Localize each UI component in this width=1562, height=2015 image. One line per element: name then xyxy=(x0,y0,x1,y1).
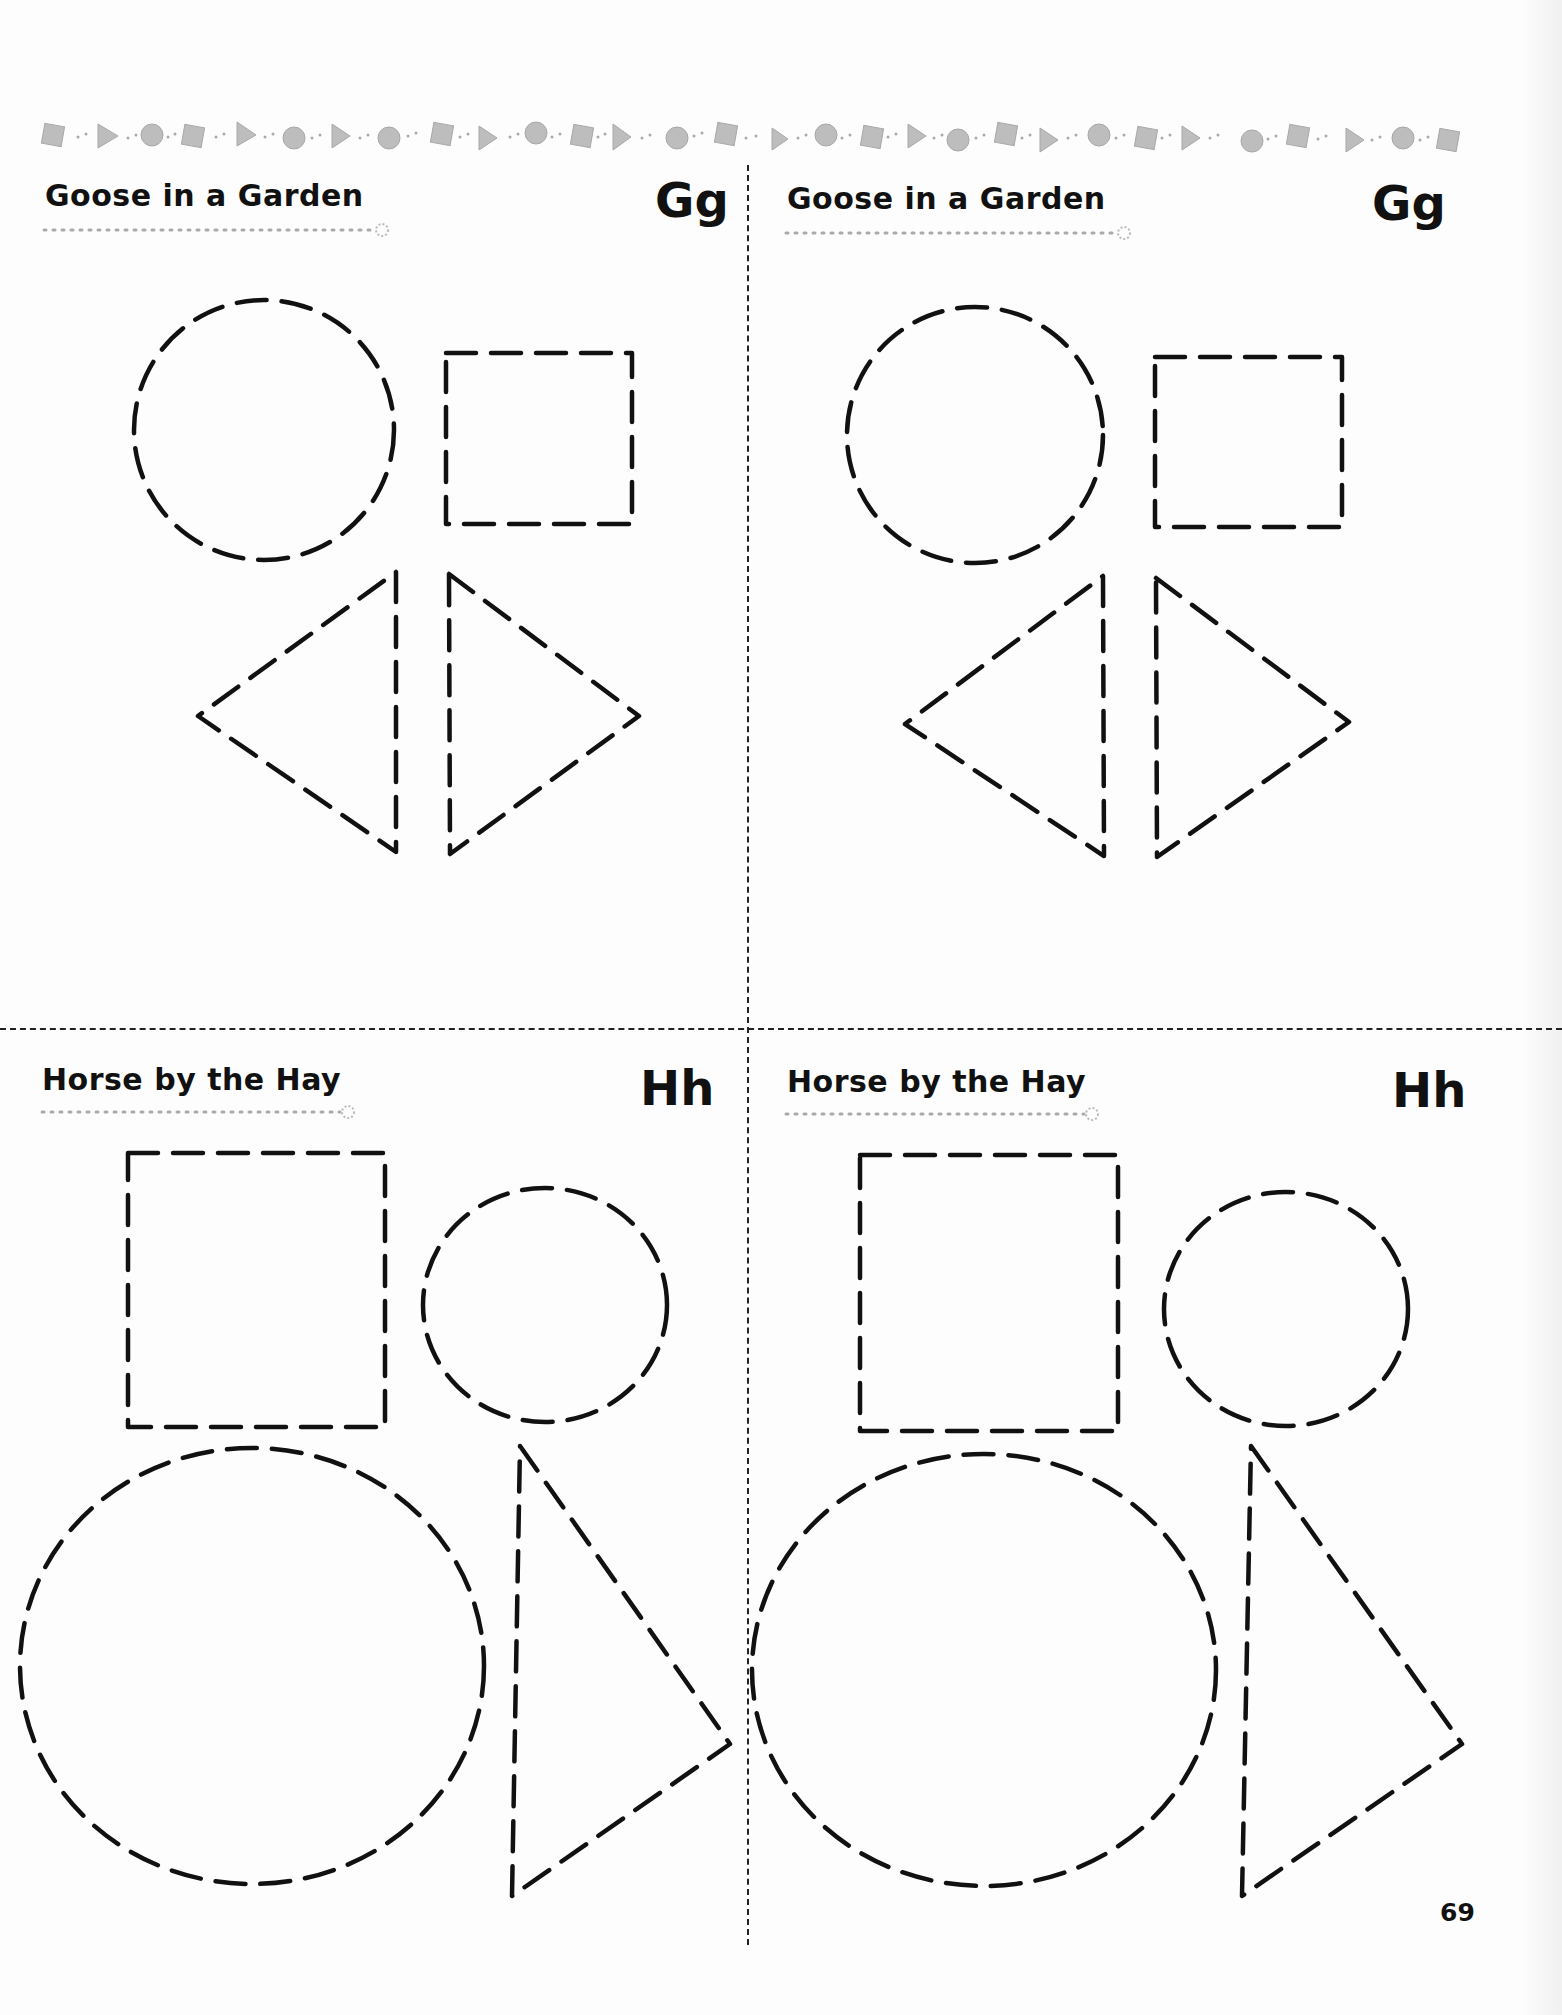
dashed-triangle xyxy=(1242,1446,1462,1896)
dashed-small-circle xyxy=(1164,1192,1408,1426)
worksheet-page: Goose in a Garden Gg Goose in a Garden G… xyxy=(0,0,1562,2015)
page-number: 69 xyxy=(1440,1898,1475,1927)
tracing-shapes xyxy=(0,0,1562,2015)
dashed-rectangle xyxy=(860,1155,1118,1431)
dashed-large-circle xyxy=(752,1454,1216,1886)
